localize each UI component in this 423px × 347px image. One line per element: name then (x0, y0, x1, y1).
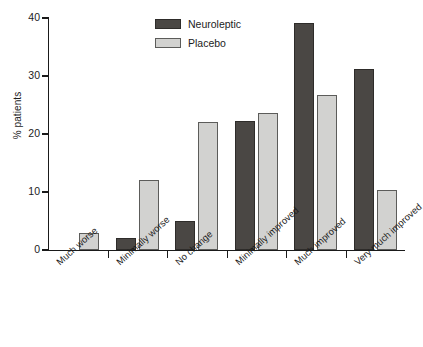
plot-area (48, 18, 405, 250)
legend-swatch-neuroleptic (155, 19, 181, 29)
legend-label-placebo: Placebo (188, 37, 226, 49)
legend-swatch-placebo (155, 38, 181, 48)
y-tick-label: 10 (10, 186, 40, 197)
legend-item-neuroleptic: Neuroleptic (155, 14, 285, 33)
y-tick-label: 30 (10, 70, 40, 81)
x-tick (167, 251, 168, 258)
x-tick (346, 251, 347, 258)
y-axis-title: % patients (12, 71, 23, 161)
bar-neuroleptic (235, 121, 255, 250)
y-tick-label: 20 (10, 128, 40, 139)
x-tick (227, 251, 228, 258)
x-tick (108, 251, 109, 258)
bar-neuroleptic (354, 69, 374, 250)
y-tick-label: 40 (10, 12, 40, 23)
legend-item-placebo: Placebo (155, 33, 285, 52)
x-tick (286, 251, 287, 258)
chart-legend: Neuroleptic Placebo (155, 14, 285, 52)
y-tick-label: 0 (10, 244, 40, 255)
legend-label-neuroleptic: Neuroleptic (188, 18, 241, 30)
